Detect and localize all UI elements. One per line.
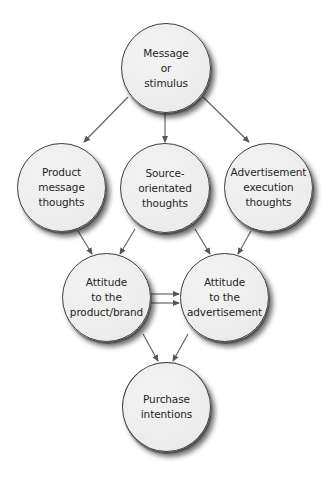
node-label: Source- orientated thoughts [138, 166, 192, 211]
arrow-message-to-ad-execution-thoughts [203, 97, 249, 142]
arrow-message-to-product-thoughts [84, 97, 128, 142]
diagram-canvas: Message or stimulus Product message thou… [0, 0, 334, 477]
arrow-attitude-ad-to-purchase [173, 334, 188, 361]
node-purchase-intentions: Purchase intentions [122, 362, 211, 452]
arrow-source-thoughts-to-attitude-product [120, 229, 135, 254]
arrow-source-thoughts-to-attitude-ad [195, 229, 210, 254]
node-label: Purchase intentions [141, 392, 192, 422]
node-product-message-thoughts: Product message thoughts [17, 143, 106, 232]
node-label: Message or stimulus [143, 46, 188, 91]
node-attitude-to-advertisement: Attitude to the advertisement [180, 253, 269, 342]
node-label: Attitude to the advertisement [187, 275, 262, 320]
node-advertisement-execution-thoughts: Advertisement execution thoughts [224, 143, 313, 232]
arrow-product-thoughts-to-attitude-product [78, 231, 92, 254]
node-source-orientated-thoughts: Source- orientated thoughts [120, 143, 210, 233]
node-label: Advertisement execution thoughts [231, 165, 307, 210]
arrow-ad-execution-to-attitude-ad [238, 231, 251, 254]
node-message-or-stimulus: Message or stimulus [121, 23, 211, 113]
arrow-attitude-product-to-purchase [143, 334, 158, 361]
node-label: Product message thoughts [38, 165, 85, 210]
node-label: Attitude to the product/brand [70, 275, 143, 320]
node-attitude-to-product-brand: Attitude to the product/brand [62, 253, 151, 342]
